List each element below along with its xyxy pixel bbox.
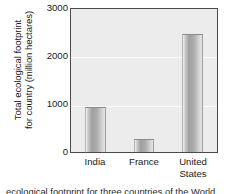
x-axis-tick-labels: India France United States	[70, 156, 218, 188]
x-tick-united-states-line-1: United	[168, 156, 218, 168]
bar-series	[71, 9, 217, 152]
x-tick-india: India	[70, 156, 120, 168]
y-tick-2000: 2000	[32, 51, 68, 61]
x-tick-united-states-line-2: States	[168, 168, 218, 180]
plot-area	[70, 8, 218, 153]
x-tick-united-states: United States	[168, 156, 218, 179]
x-tick-india-line-1: India	[70, 156, 120, 168]
x-tick-france: France	[119, 156, 169, 168]
bar-india[interactable]	[85, 107, 105, 152]
y-axis-tick-labels: 3000 2000 1000 0	[28, 0, 68, 194]
y-tick-1000: 1000	[32, 99, 68, 109]
y-axis-title-line-1: Total ecological footprint	[12, 20, 24, 120]
y-tick-3000: 3000	[32, 3, 68, 13]
bar-chart-figure: Total ecological footprint for country (…	[0, 0, 243, 194]
bar-united-states[interactable]	[182, 34, 202, 152]
figure-caption: ecological footprint for three countries…	[6, 186, 243, 194]
bar-france[interactable]	[134, 139, 154, 152]
y-tick-0: 0	[32, 147, 68, 157]
x-tick-france-line-1: France	[119, 156, 169, 168]
